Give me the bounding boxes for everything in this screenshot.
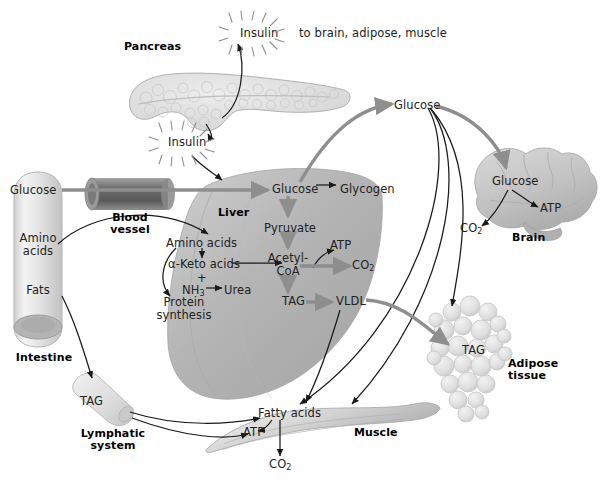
diagram-canvas: Pancreas Insulin to brain, adipose, musc… <box>0 0 609 485</box>
organ-label-muscle: Muscle <box>354 427 398 439</box>
metabolite-liver-acetyl-coa: Acetyl-CoA <box>268 252 308 278</box>
metabolite-liver-glucose: Glucose <box>272 183 319 196</box>
metabolite-liver-urea: Urea <box>224 284 251 297</box>
organ-label-adipose-tissue: Adiposetissue <box>508 358 558 383</box>
metabolite-liver-co2: CO2 <box>352 259 375 274</box>
metabolite-muscle-fatty-acids: Fatty acids <box>258 407 321 420</box>
insulin-lower-rays <box>149 121 214 166</box>
metabolite-adipose-tag: TAG <box>462 344 485 357</box>
organ-label-blood-vessel: Bloodvessel <box>110 212 150 237</box>
metabolite-intestine-glucose: Glucose <box>10 184 57 197</box>
organ-label-intestine: Intestine <box>16 352 72 364</box>
metabolite-muscle-atp: ATP <box>243 426 264 439</box>
organ-label-liver: Liver <box>218 207 249 219</box>
metabolite-intestine-amino: Aminoacids <box>19 232 56 258</box>
metabolite-brain-atp: ATP <box>540 202 561 215</box>
metabolite-liver-amino-acids: Amino acids <box>166 237 237 250</box>
metabolite-liver-atp: ATP <box>330 239 351 252</box>
organ-label-brain: Brain <box>512 232 545 244</box>
metabolite-liver-protein-synthesis: Proteinsynthesis <box>156 296 211 322</box>
metabolite-intestine-fats: Fats <box>26 284 50 297</box>
metabolite-liver-pyruvate: Pyruvate <box>264 222 316 235</box>
metabolite-brain-co2: CO2 <box>460 222 483 237</box>
metabolite-liver-glycogen: Glycogen <box>340 183 395 196</box>
metabolite-lymph-tag: TAG <box>80 395 103 408</box>
metabolite-liver-vldl: VLDL <box>336 295 366 308</box>
insulin-top-rays <box>219 11 284 56</box>
metabolite-hub-glucose: Glucose <box>394 99 441 112</box>
metabolite-muscle-co2: CO2 <box>269 458 292 473</box>
metabolite-liver-tag: TAG <box>282 295 305 308</box>
metabolite-brain-glucose: Glucose <box>492 175 539 188</box>
metabolite-liver-keto-acids: α-Keto acids <box>168 258 240 271</box>
organ-label-lymphatic-system: Lymphaticsystem <box>81 428 145 453</box>
